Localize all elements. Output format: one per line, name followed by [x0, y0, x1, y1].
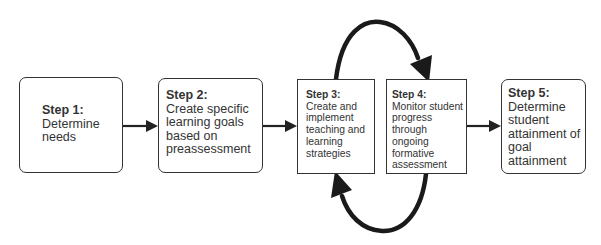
step-3-line: learning [306, 136, 365, 148]
step-4-line: ongoing [392, 136, 463, 148]
step-2-box: Step 2: Create specific learning goals b… [158, 78, 263, 173]
step-1-box: Step 1: Determine needs [19, 77, 123, 173]
step-5-line: attainment [508, 155, 580, 169]
loop-arrow-step4-to-step3 [331, 171, 426, 231]
step-5-title: Step 5: [508, 87, 580, 101]
step-5-line: student [508, 114, 580, 128]
step-1-line: Determine [42, 118, 100, 132]
step-2-line: based on [166, 130, 251, 144]
step-2-line: Create specific [166, 103, 251, 117]
step-3-line: Create and [306, 101, 365, 113]
step-3-line: teaching and [306, 124, 365, 136]
step-5-box: Step 5: Determine student attainment of … [501, 79, 586, 174]
step-5-line: goal [508, 141, 580, 155]
step-4-line: progress [392, 112, 463, 124]
step-5-line: attainment of [508, 128, 580, 142]
step-1-line: needs [42, 131, 100, 145]
step-4-line: formative [392, 148, 463, 160]
arrow-step2-to-step3 [263, 120, 297, 132]
step-3-line: strategies [306, 148, 365, 160]
step-3-box: Step 3: Create and implement teaching an… [297, 79, 375, 174]
step-4-title: Step 4: [392, 89, 463, 101]
step-3-title: Step 3: [306, 89, 365, 101]
step-3-line: implement [306, 112, 365, 124]
step-2-line: preassessment [166, 143, 251, 157]
step-2-line: learning goals [166, 116, 251, 130]
step-4-line: assessment [392, 159, 463, 171]
step-1-title: Step 1: [42, 104, 100, 118]
arrow-step1-to-step2 [123, 120, 158, 132]
loop-arrow-step3-to-step4 [336, 22, 432, 82]
step-4-box: Step 4: Monitor student progress through… [386, 79, 467, 174]
step-2-title: Step 2: [166, 89, 251, 103]
step-4-line: through [392, 124, 463, 136]
arrow-step4-to-step5 [467, 120, 501, 132]
step-5-line: Determine [508, 101, 580, 115]
step-4-line: Monitor student [392, 101, 463, 113]
